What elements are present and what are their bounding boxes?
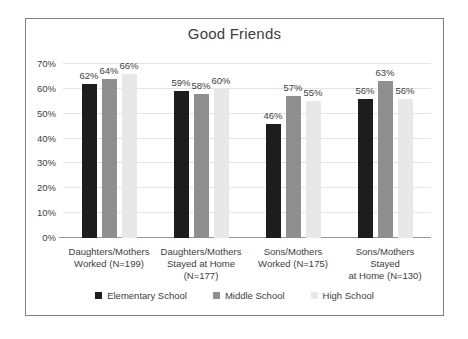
data-label: 56% [395, 85, 414, 96]
bar-group: 59%58%60% [155, 64, 247, 238]
legend-label: Middle School [225, 290, 285, 301]
y-tick-label: 30% [37, 157, 56, 168]
bar: 46% [266, 124, 281, 238]
data-label: 56% [355, 85, 374, 96]
legend: Elementary SchoolMiddle SchoolHigh Schoo… [26, 290, 443, 301]
legend-item: High School [311, 290, 374, 301]
legend-swatch-icon [95, 292, 102, 299]
bar-group: 46%57%55% [247, 64, 339, 238]
plot-area: 0%10%20%30%40%50%60%70%62%64%66%59%58%60… [63, 64, 431, 238]
bar-group: 62%64%66% [63, 64, 155, 238]
data-label: 59% [171, 77, 190, 88]
y-tick-label: 60% [37, 83, 56, 94]
bar: 56% [398, 99, 413, 238]
bar: 62% [82, 84, 97, 238]
legend-label: Elementary School [107, 290, 187, 301]
legend-item: Middle School [213, 290, 285, 301]
category-label: Sons/Mothers Stayedat Home (N=130) [339, 246, 431, 282]
y-tick-label: 20% [37, 182, 56, 193]
y-tick-label: 40% [37, 133, 56, 144]
bar: 58% [194, 94, 209, 238]
y-tick-label: 70% [37, 58, 56, 69]
data-label: 55% [303, 87, 322, 98]
bar: 63% [378, 81, 393, 238]
data-label: 57% [283, 82, 302, 93]
data-label: 62% [79, 70, 98, 81]
bar: 59% [174, 91, 189, 238]
y-tick-label: 50% [37, 108, 56, 119]
bar: 60% [214, 89, 229, 238]
data-label: 64% [99, 65, 118, 76]
category-label: Daughters/MothersStayed at Home(N=177) [155, 246, 247, 282]
category-label: Sons/MothersWorked (N=175) [247, 246, 339, 282]
legend-swatch-icon [311, 292, 318, 299]
data-label: 46% [263, 110, 282, 121]
y-tick-label: 10% [37, 207, 56, 218]
legend-swatch-icon [213, 292, 220, 299]
bar-group: 56%63%56% [339, 64, 431, 238]
bar: 66% [122, 74, 137, 238]
data-label: 66% [119, 60, 138, 71]
legend-item: Elementary School [95, 290, 187, 301]
chart-frame: Good Friends 0%10%20%30%40%50%60%70%62%6… [25, 18, 444, 316]
data-label: 58% [191, 80, 210, 91]
bar: 64% [102, 79, 117, 238]
legend-label: High School [323, 290, 374, 301]
data-label: 60% [211, 75, 230, 86]
bar: 55% [306, 101, 321, 238]
bar: 56% [358, 99, 373, 238]
chart-title: Good Friends [26, 25, 443, 42]
x-axis-labels: Daughters/MothersWorked (N=199)Daughters… [63, 246, 431, 282]
y-tick-label: 0% [42, 232, 56, 243]
category-label: Daughters/MothersWorked (N=199) [63, 246, 155, 282]
data-label: 63% [375, 67, 394, 78]
bar-groups: 62%64%66%59%58%60%46%57%55%56%63%56% [63, 64, 431, 238]
bar: 57% [286, 96, 301, 238]
